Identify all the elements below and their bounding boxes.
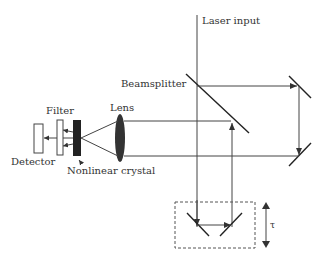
detector-label: Detector (11, 156, 56, 167)
tau-label: τ (270, 220, 275, 230)
autocorrelator-diagram: Laser input Beamsplitter τ Lens Nonlinea… (0, 0, 321, 262)
output-beam-upper (63, 130, 73, 132)
tau-arrow-down-icon (262, 241, 270, 248)
filter (57, 120, 63, 155)
crystal-label: Nonlinear crystal (67, 165, 155, 176)
laser-input-label: Laser input (202, 15, 260, 26)
lens-label: Lens (110, 102, 134, 113)
mirror-bottom-right (289, 143, 311, 166)
crystal-pointer (79, 160, 82, 164)
focus-upper (81, 121, 118, 138)
tau-arrow-up-icon (262, 202, 270, 209)
filter-label: Filter (46, 105, 74, 116)
focus-lower (81, 138, 118, 156)
beamsplitter (186, 74, 249, 133)
output-beam-lower (63, 144, 73, 146)
beamsplitter-label: Beamsplitter (121, 78, 187, 89)
mirror-top-right (289, 76, 311, 98)
detector (34, 124, 43, 153)
nonlinear-crystal (73, 120, 81, 156)
